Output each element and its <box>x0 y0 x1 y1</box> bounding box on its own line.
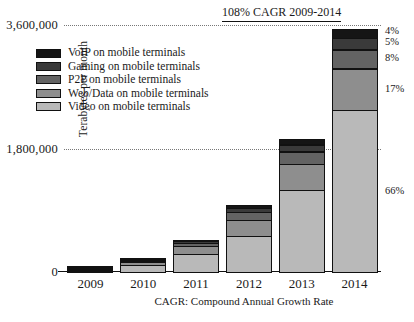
x-axis-tick-label: 2009 <box>77 276 103 292</box>
share-percentage-label: 5% <box>385 36 399 47</box>
bar-segment <box>120 265 166 273</box>
legend-item[interactable]: VoIP on mobile terminals <box>36 47 209 59</box>
chart-legend: VoIP on mobile terminalsGaming on mobile… <box>36 47 209 113</box>
chart-footnote: CAGR: Compound Annual Growth Rate <box>154 295 333 307</box>
bar-2009[interactable] <box>67 266 113 272</box>
bar-segment <box>226 220 272 237</box>
legend-swatch-icon <box>36 89 61 98</box>
bar-2011[interactable] <box>173 236 219 272</box>
legend-item[interactable]: Gaming on mobile terminals <box>36 60 209 72</box>
bar-segment <box>332 38 378 50</box>
legend-item[interactable]: Web/Data on mobile terminals <box>36 87 209 99</box>
legend-item-label: Gaming on mobile terminals <box>68 61 200 73</box>
x-axis-tick-label: 2010 <box>130 276 156 292</box>
bar-segment <box>173 254 219 273</box>
share-percentage-label: 66% <box>385 185 404 196</box>
x-axis-tick-label: 2011 <box>183 276 209 292</box>
bar-2013[interactable] <box>279 135 325 272</box>
share-percentage-label: 4% <box>385 24 399 35</box>
share-percentage-label: 8% <box>385 52 399 63</box>
bar-2010[interactable] <box>120 256 166 272</box>
y-axis-tick-label: 3,600,000 <box>6 18 58 33</box>
legend-item[interactable]: P2P on mobile terminals <box>36 74 209 86</box>
legend-item[interactable]: Video on mobile terminals <box>36 101 209 113</box>
x-axis-tick-label: 2012 <box>236 276 262 292</box>
bar-segment <box>67 271 113 273</box>
legend-swatch-icon <box>36 49 61 58</box>
legend-swatch-icon <box>36 75 61 84</box>
bar-segment <box>279 152 325 165</box>
bar-segment <box>332 50 378 70</box>
bar-segment <box>332 110 378 273</box>
bar-2014[interactable] <box>332 25 378 272</box>
legend-item-label: P2P on mobile terminals <box>68 74 181 86</box>
cagr-annotation: 108% CAGR 2009-2014 <box>222 5 341 22</box>
bar-segment <box>332 69 378 111</box>
x-axis-tick-label: 2013 <box>289 276 315 292</box>
share-percentage-label: 17% <box>385 82 404 93</box>
legend-swatch-icon <box>36 102 61 111</box>
bar-segment <box>279 190 325 273</box>
legend-item-label: Web/Data on mobile terminals <box>68 88 209 100</box>
y-axis-tick-label: 0 <box>52 265 58 280</box>
chart-container: Terabytes per month 01,800,0003,600,000 … <box>0 0 414 322</box>
x-axis-tick-label: 2014 <box>342 276 368 292</box>
legend-item-label: Video on mobile terminals <box>68 101 190 113</box>
bar-segment <box>279 164 325 191</box>
legend-swatch-icon <box>36 62 61 71</box>
bar-segment <box>226 236 272 273</box>
y-axis-tick-label: 1,800,000 <box>6 141 58 156</box>
bar-2012[interactable] <box>226 201 272 272</box>
legend-item-label: VoIP on mobile terminals <box>68 47 185 59</box>
